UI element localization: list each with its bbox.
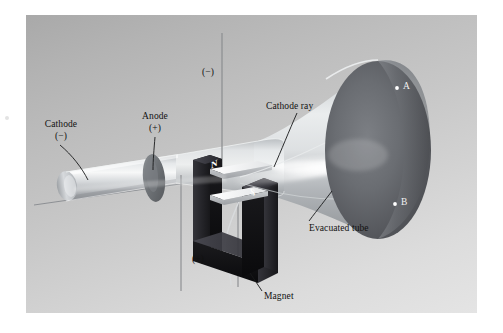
page-corner-mark (5, 116, 9, 120)
magnet-label: Magnet (264, 291, 294, 303)
anode-label: Anode (+) (129, 111, 181, 134)
spot-b-label: B (401, 197, 407, 207)
cathode-ray-label: Cathode ray (266, 101, 313, 113)
evacuated-tube-label: Evacuated tube (309, 223, 369, 235)
spot-a-label: A (403, 81, 410, 91)
negative-plate-sign-label: (−) (202, 67, 214, 79)
figure-root: N S A B Cathode (−) Anode (+) Cathode ra… (0, 0, 503, 333)
positive-plate-sign-label: (+) (192, 254, 204, 266)
illustration-panel: N S A B Cathode (−) Anode (+) Cathode ra… (26, 15, 477, 313)
anode-label-text: Anode (142, 111, 168, 121)
anode-label-sign: (+) (129, 123, 181, 135)
spot-b-marker (393, 202, 397, 206)
tube-screen-face (325, 60, 431, 239)
cathode-label: Cathode (−) (33, 119, 89, 142)
cathode-label-sign: (−) (33, 131, 89, 143)
spot-a-marker (395, 86, 399, 90)
cathode-ray-tube-illustration (26, 15, 477, 313)
cathode-label-text: Cathode (45, 119, 77, 129)
magnet-south-pole-label: S (250, 186, 255, 198)
